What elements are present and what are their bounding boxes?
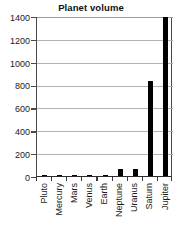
y-axis-label-1200: 1200	[0, 37, 30, 46]
x-axis-label-mars-wrap: Mars	[67, 183, 81, 237]
x-axis-tick-1	[51, 177, 52, 181]
gridline-1400	[37, 17, 173, 18]
bar-uranus	[133, 169, 138, 176]
x-axis-label-saturn-wrap: Saturn	[142, 183, 156, 237]
y-axis-label-1000: 1000	[0, 60, 30, 69]
x-axis-tick-6	[127, 177, 128, 181]
x-axis-tick-8	[157, 177, 158, 181]
bar-mercury	[57, 175, 62, 176]
x-axis-label-uranus: Uranus	[130, 183, 139, 212]
x-axis-tick-0	[36, 177, 37, 181]
chart-title: Planet volume	[0, 2, 182, 13]
x-axis-label-venus: Venus	[84, 183, 93, 208]
x-axis-label-pluto: Pluto	[39, 183, 48, 204]
y-axis-label-0: 0	[0, 174, 30, 183]
y-axis-label-1400: 1400	[0, 14, 30, 23]
x-axis-label-pluto-wrap: Pluto	[37, 183, 51, 237]
y-axis-label-400: 400	[0, 128, 30, 137]
planet-volume-bar-chart: Planet volume 1400 1200 1000 800 600 400…	[0, 0, 182, 238]
bar-neptune	[118, 169, 123, 176]
x-axis-label-saturn: Saturn	[145, 183, 154, 210]
bar-jupiter	[163, 17, 168, 176]
x-axis-tick-9	[171, 177, 172, 181]
x-axis-tick-5	[112, 177, 113, 181]
x-axis-label-earth-wrap: Earth	[97, 183, 111, 237]
x-axis-label-earth: Earth	[100, 183, 109, 205]
x-axis-tick-2	[66, 177, 67, 181]
x-axis-tick-3	[81, 177, 82, 181]
x-axis-label-venus-wrap: Venus	[82, 183, 96, 237]
bar-earth	[103, 175, 108, 176]
x-axis-label-mercury: Mercury	[54, 183, 63, 216]
bar-pluto	[42, 175, 47, 176]
bar-mars	[72, 175, 77, 176]
bar-venus	[87, 175, 92, 176]
x-axis-tick-7	[142, 177, 143, 181]
x-axis-label-neptune: Neptune	[115, 183, 124, 217]
gridline-1000	[37, 63, 173, 64]
y-axis-label-600: 600	[0, 105, 30, 114]
x-axis-label-neptune-wrap: Neptune	[112, 183, 126, 237]
x-axis-label-uranus-wrap: Uranus	[127, 183, 141, 237]
x-axis-label-mercury-wrap: Mercury	[52, 183, 66, 237]
plot-area	[36, 17, 172, 177]
y-axis-label-800: 800	[0, 82, 30, 91]
y-axis-label-200: 200	[0, 151, 30, 160]
x-axis-tick-4	[96, 177, 97, 181]
gridline-1200	[37, 40, 173, 41]
bar-saturn	[148, 81, 153, 176]
x-axis-label-mars: Mars	[69, 183, 78, 203]
x-axis-label-jupiter-wrap: Jupiter	[158, 183, 172, 237]
x-axis-label-jupiter: Jupiter	[160, 183, 169, 210]
